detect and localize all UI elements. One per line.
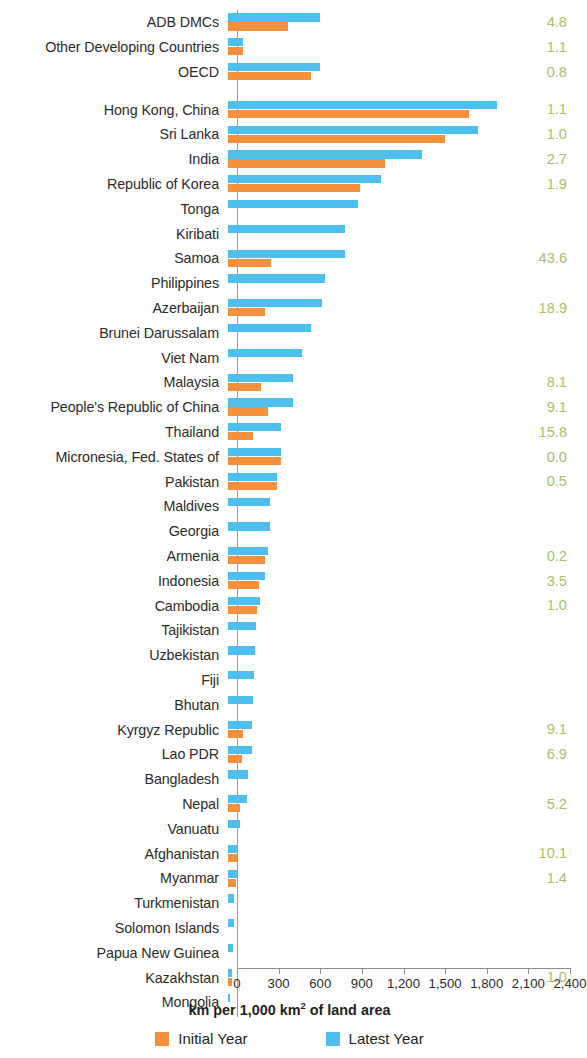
chart-rows: ADB DMCs4.8Other Developing Countries1.1… — [0, 10, 579, 1015]
category-label: Turkmenistan — [0, 896, 228, 910]
category-label: Kyrgyz Republic — [0, 723, 228, 737]
bar-initial-year — [228, 159, 385, 167]
bar-latest-year — [228, 770, 248, 778]
chart-row: Azerbaijan18.9 — [0, 296, 579, 321]
x-axis-tick — [320, 968, 321, 974]
bar-latest-year — [228, 969, 232, 977]
legend-item: Initial Year — [155, 1030, 247, 1047]
bar-pair — [228, 819, 493, 838]
bar-initial-year — [228, 556, 265, 564]
row-value-label: 1.1 — [493, 40, 573, 55]
x-axis-tick-label: 2,100 — [512, 976, 545, 991]
x-axis: 03006009001,2001,5001,8002,1002,400 — [237, 968, 570, 969]
bar-pair — [228, 671, 493, 690]
x-axis-tick-label: 900 — [351, 976, 373, 991]
row-value-label: 1.9 — [493, 177, 573, 192]
category-label: Pakistan — [0, 475, 228, 489]
bar-initial-year — [228, 804, 240, 812]
x-axis-tick — [362, 968, 363, 974]
bar-latest-year — [228, 274, 325, 282]
bar-latest-year — [228, 498, 270, 506]
bar-initial-year — [228, 854, 237, 862]
chart-row: Samoa43.6 — [0, 246, 579, 271]
row-value-label: 18.9 — [493, 301, 573, 316]
bar-initial-year — [228, 184, 360, 192]
bar-latest-year — [228, 597, 260, 605]
bar-initial-year — [228, 22, 288, 30]
chart-row: Nepal5.2 — [0, 792, 579, 817]
bar-latest-year — [228, 746, 252, 754]
row-value-label: 1.1 — [493, 102, 573, 117]
category-label: India — [0, 152, 228, 166]
bar-initial-year — [228, 457, 281, 465]
bar-initial-year — [228, 581, 259, 589]
legend-label: Latest Year — [349, 1030, 424, 1047]
bar-latest-year — [228, 423, 281, 431]
chart-row: Cambodia1.0 — [0, 593, 579, 618]
category-label: Philippines — [0, 276, 228, 290]
legend-item: Latest Year — [326, 1030, 424, 1047]
x-axis-tick-label: 0 — [233, 976, 240, 991]
row-value-label: 8.1 — [493, 375, 573, 390]
bar-pair — [228, 943, 493, 962]
bar-pair — [228, 547, 493, 566]
category-label: Tajikistan — [0, 623, 228, 637]
x-axis-tick — [487, 968, 488, 974]
bar-latest-year — [228, 349, 302, 357]
row-value-label: 10.1 — [493, 846, 573, 861]
bar-latest-year — [228, 845, 238, 853]
bar-latest-year — [228, 398, 293, 406]
x-axis-title-suffix: of land area — [306, 1002, 391, 1018]
bar-latest-year — [228, 200, 358, 208]
bar-initial-year — [228, 47, 243, 55]
chart-row: Sri Lanka1.0 — [0, 122, 579, 147]
x-axis-title-prefix: km per 1,000 km — [188, 1002, 300, 1018]
bar-latest-year — [228, 225, 345, 233]
bar-pair — [228, 323, 493, 342]
bar-pair — [228, 423, 493, 442]
bar-latest-year — [228, 374, 293, 382]
category-label: Bangladesh — [0, 772, 228, 786]
category-label: Georgia — [0, 524, 228, 538]
bar-pair — [228, 150, 493, 169]
category-label: Kazakhstan — [0, 971, 228, 985]
category-label: Papua New Guinea — [0, 946, 228, 960]
bar-pair — [228, 472, 493, 491]
bar-latest-year — [228, 944, 233, 952]
bar-latest-year — [228, 38, 243, 46]
category-label: Tonga — [0, 202, 228, 216]
bar-pair — [228, 38, 493, 57]
category-label: Republic of Korea — [0, 177, 228, 191]
x-axis-tick — [279, 968, 280, 974]
chart-row: Republic of Korea1.9 — [0, 172, 579, 197]
bar-pair — [228, 62, 493, 81]
row-value-label: 9.1 — [493, 400, 573, 415]
x-axis-tick-label: 600 — [309, 976, 331, 991]
chart-row: Armenia0.2 — [0, 544, 579, 569]
category-label: Other Developing Countries — [0, 40, 228, 54]
chart-row: Kiribati — [0, 221, 579, 246]
bar-latest-year — [228, 572, 265, 580]
bar-latest-year — [228, 250, 345, 258]
bar-pair — [228, 199, 493, 218]
chart-row: Afghanistan10.1 — [0, 841, 579, 866]
row-value-label: 1.4 — [493, 871, 573, 886]
category-label: Maldives — [0, 499, 228, 513]
chart-row: Georgia — [0, 519, 579, 544]
row-value-label: 3.5 — [493, 574, 573, 589]
bar-pair — [228, 646, 493, 665]
bar-latest-year — [228, 522, 270, 530]
category-label: Hong Kong, China — [0, 103, 228, 117]
category-label: Cambodia — [0, 599, 228, 613]
x-axis-tick — [445, 968, 446, 974]
chart-row: Tonga — [0, 197, 579, 222]
bar-initial-year — [228, 432, 253, 440]
bar-latest-year — [228, 622, 256, 630]
bar-initial-year — [228, 407, 268, 415]
category-label: Armenia — [0, 549, 228, 563]
chart-row: Malaysia8.1 — [0, 370, 579, 395]
chart-legend: Initial YearLatest Year — [0, 1030, 579, 1047]
bar-initial-year — [228, 978, 232, 986]
chart-row: Bangladesh — [0, 767, 579, 792]
chart-row: Bhutan — [0, 693, 579, 718]
